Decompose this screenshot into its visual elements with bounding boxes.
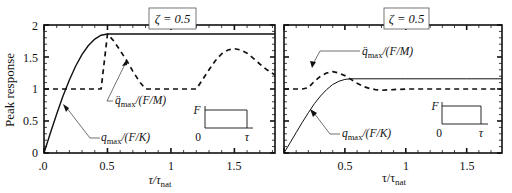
right-x-axis-label: τ/τnat: [382, 171, 406, 187]
pulse-shape-top: [205, 110, 247, 128]
annotation-label: qmax/(F/K): [101, 131, 150, 146]
ytick-label: 0: [32, 146, 38, 160]
right-curves: [284, 72, 502, 153]
xtick-label: 0.5: [338, 159, 353, 173]
xlabel-main: τ/τ: [149, 173, 162, 187]
ytick-label: 1.5: [23, 51, 38, 65]
xlabel-main: τ/τ: [382, 171, 395, 185]
inset-tau-label: τ: [479, 126, 484, 140]
right-title: ζ = 0.5: [389, 12, 424, 26]
annotation-leader-line: [66, 107, 100, 138]
annotation-label: q̈max/(F/M): [362, 45, 413, 60]
inset-zero-label: 0: [436, 127, 442, 139]
arrowhead-icon: [63, 104, 69, 112]
right-panel: 0.5 1 1.5 τ/τnat ζ = 0.5 q̈max/(F/M) qma…: [284, 8, 502, 187]
pulse-shape-top: [442, 106, 481, 124]
xtick-label: 1.5: [227, 159, 242, 173]
left-annotation-accel: q̈max/(F/M): [107, 59, 166, 109]
annotation-leader-line: [313, 51, 360, 64]
annotation-label: q̈max/(F/M): [115, 94, 166, 109]
left-ytick-labels: 2 1.5 1 0.5 0: [23, 19, 38, 160]
figure: Peak response 2 1.5 1 0.5 0 .0 0.5 1 1.5…: [0, 0, 512, 193]
right-annotation-accel: q̈max/(F/M): [310, 45, 413, 68]
xtick-label: 1: [403, 159, 409, 173]
arrowhead-icon: [310, 61, 316, 68]
xtick-label: 1.5: [460, 159, 475, 173]
ytick-label: 0.5: [23, 114, 38, 128]
inset-tau-label: τ: [245, 130, 250, 144]
left-x-axis-label: τ/τnat: [149, 173, 172, 189]
ytick-label: 1: [32, 82, 38, 96]
left-xtick-labels: .0 0.5 1 1.5: [39, 159, 242, 173]
xtick-label: 0.5: [100, 159, 115, 173]
annotation-leader-line: [314, 113, 340, 134]
left-panel: 2 1.5 1 0.5 0 .0 0.5 1 1.5 τ/τnat ζ = 0.…: [23, 8, 275, 189]
xtick-label: .0: [39, 159, 48, 173]
annotation-label: qmax/(F/K): [342, 127, 391, 142]
right-xtick-labels: 0.5 1 1.5: [338, 159, 475, 173]
accel-curve: [284, 72, 502, 91]
pulse-shape: [205, 106, 253, 128]
left-annotation-disp: qmax/(F/K): [63, 104, 150, 146]
ytick-label: 2: [32, 19, 38, 33]
xlabel-sub: nat: [395, 177, 406, 187]
left-inset-pulse: F 0 τ: [192, 104, 253, 144]
left-title: ζ = 0.5: [155, 12, 190, 26]
right-inset-pulse: F 0 τ: [430, 100, 488, 140]
right-annotation-disp: qmax/(F/K): [310, 109, 391, 142]
inset-F-label: F: [430, 100, 439, 112]
inset-F-label: F: [192, 104, 201, 116]
inset-zero-label: 0: [195, 131, 201, 143]
y-axis-label: Peak response: [2, 53, 17, 127]
xtick-label: 1: [168, 159, 174, 173]
xlabel-sub: nat: [160, 179, 171, 189]
